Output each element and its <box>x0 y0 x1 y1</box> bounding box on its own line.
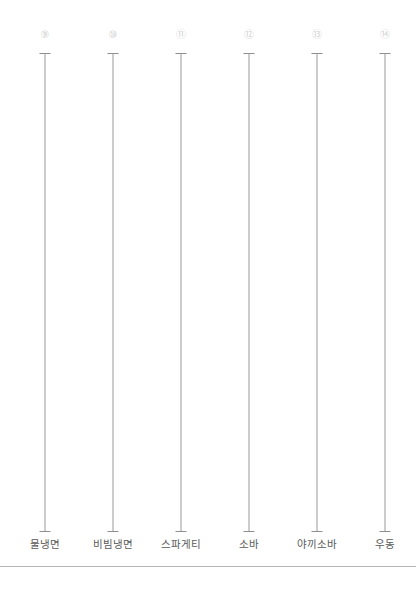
data-point-index-label: ⑫ <box>244 28 254 41</box>
x-axis-category-label: 야끼소바 <box>297 537 337 551</box>
whisker-cap-lower <box>40 531 51 532</box>
plot-area: ⑨물냉면⑩비빔냉면⑪스파게티⑫소바⑬야끼소바⑭우동 <box>0 0 416 560</box>
chart-root: ⑨물냉면⑩비빔냉면⑪스파게티⑫소바⑬야끼소바⑭우동 <box>0 0 416 589</box>
whisker-cap-lower <box>108 531 119 532</box>
data-point-index-label: ⑭ <box>380 28 390 41</box>
data-point-index-label: ⑬ <box>312 28 322 41</box>
whisker-line <box>181 53 182 531</box>
x-axis-category-label: 우동 <box>375 537 395 551</box>
whisker-line <box>317 53 318 531</box>
whisker-line <box>385 53 386 531</box>
data-point-index-label: ⑨ <box>41 28 50 41</box>
whisker-cap-lower <box>176 531 187 532</box>
x-axis-category-label: 소바 <box>239 537 259 551</box>
whisker-cap-lower <box>244 531 255 532</box>
x-axis-category-label: 물냉면 <box>30 537 60 551</box>
whisker-line <box>113 53 114 531</box>
x-axis-category-label: 비빔냉면 <box>93 537 133 551</box>
whisker-line <box>45 53 46 531</box>
bottom-divider <box>0 566 416 567</box>
data-point-index-label: ⑩ <box>109 28 118 41</box>
whisker-line <box>249 53 250 531</box>
x-axis-category-label: 스파게티 <box>161 537 201 551</box>
whisker-cap-lower <box>312 531 323 532</box>
whisker-cap-lower <box>380 531 391 532</box>
data-point-index-label: ⑪ <box>176 28 186 41</box>
